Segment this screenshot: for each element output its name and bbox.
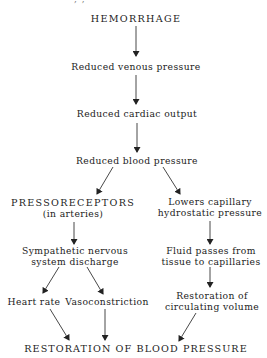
- node-restoration-volume-line2: circulating volume: [165, 301, 259, 312]
- cropped-text-fragment: , ,: [74, 0, 86, 4]
- node-lowers-capillary-line1: Lowers capillary: [168, 196, 252, 207]
- node-heart-rate: Heart rate: [8, 296, 61, 307]
- arrow-heart-rate-to-restoration-bp: [50, 309, 69, 340]
- node-vasoconstriction: Vasoconstriction: [65, 296, 148, 307]
- node-pressoreceptors-line2: (in arteries): [43, 208, 104, 219]
- node-hemorrhage: HEMORRHAGE: [91, 13, 181, 24]
- node-fluid-passes-line1: Fluid passes from: [166, 245, 256, 256]
- arrow-restoration-volume-to-restoration-bp: [179, 313, 196, 341]
- node-reduced-cardiac-output: Reduced cardiac output: [77, 108, 197, 119]
- arrow-sympathetic-to-heart-rate: [43, 267, 59, 293]
- node-lowers-capillary-line2: hydrostatic pressure: [158, 207, 262, 218]
- arrow-sympathetic-to-vasoconstriction: [87, 267, 103, 294]
- node-reduced-venous-pressure: Reduced venous pressure: [71, 61, 200, 72]
- node-sympathetic-line1: Sympathetic nervous: [22, 245, 128, 256]
- node-pressoreceptors-line1: PRESSORECEPTORS: [11, 197, 135, 208]
- arrow-bp-to-pressoreceptors: [97, 167, 113, 194]
- node-fluid-passes-line2: tissue to capillaries: [161, 256, 260, 267]
- node-sympathetic-line2: system discharge: [31, 256, 119, 267]
- node-restoration-volume-line1: Restoration of: [176, 290, 248, 301]
- node-restoration-of-blood-pressure: RESTORATION OF BLOOD PRESSURE: [24, 343, 248, 354]
- node-reduced-blood-pressure: Reduced blood pressure: [76, 155, 198, 166]
- arrow-bp-to-capillary: [163, 167, 180, 194]
